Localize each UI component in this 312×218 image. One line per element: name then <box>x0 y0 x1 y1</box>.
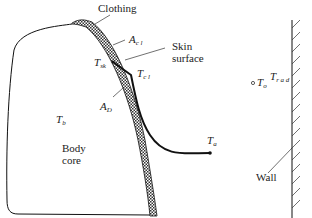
a-cl-leader <box>113 40 125 45</box>
t-sk-symbol: Tsk <box>94 56 107 70</box>
skin-surface-label-1: Skin <box>172 40 193 52</box>
t-rad-symbol: Tr a d <box>270 70 290 84</box>
t-o-symbol: To <box>257 76 267 90</box>
t-a-symbol: Ta <box>207 134 217 148</box>
a-d-symbol: AD <box>99 100 112 114</box>
wall <box>292 20 300 218</box>
skin-surface-leader <box>125 48 165 60</box>
body-core-label-1: Body <box>62 142 86 154</box>
t-b-symbol: Tb <box>56 113 66 127</box>
temperature-profile-line <box>113 62 210 153</box>
thermal-comfort-diagram: Clothing Skin surface Body core Wall Ac … <box>0 0 312 218</box>
a-d-leader <box>113 88 123 97</box>
t-sk-point <box>112 61 115 64</box>
clothing-layer <box>72 20 157 216</box>
body-outline <box>7 24 150 215</box>
wall-label: Wall <box>256 171 277 183</box>
clothing-label: Clothing <box>98 2 137 14</box>
a-cl-symbol: Ac l <box>128 33 143 47</box>
skin-surface-label-2: surface <box>172 52 204 64</box>
t-a-point <box>208 151 212 155</box>
body-core-label-2: core <box>62 154 81 166</box>
wall-leader <box>268 148 292 173</box>
t-o-marker <box>251 81 254 84</box>
t-cl-symbol: Tc l <box>137 67 150 81</box>
clothing-leader <box>95 15 110 24</box>
